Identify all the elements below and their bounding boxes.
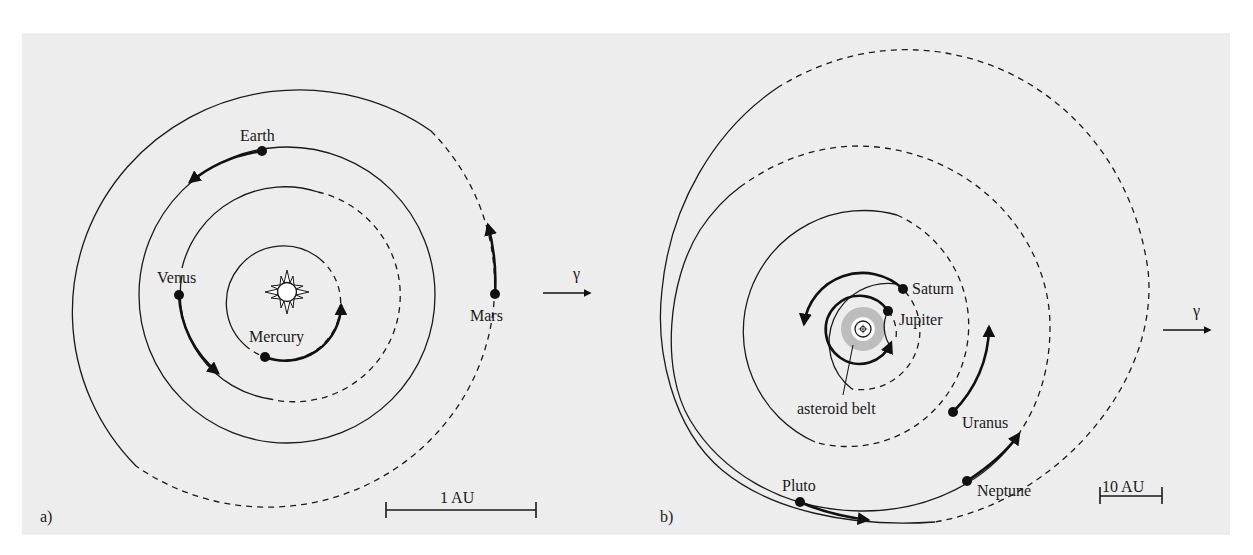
- neptune-dot: [962, 476, 972, 486]
- figure-background: [22, 33, 1230, 535]
- vernal-equinox-symbol-a: γ: [572, 265, 580, 283]
- saturn-label: Saturn: [912, 280, 954, 297]
- solar-system-orbits-figure: Mercury Venus Earth Mars γ 1 AU a): [0, 0, 1253, 555]
- venus-dot: [174, 290, 184, 300]
- asteroid-belt-label: asteroid belt: [797, 400, 876, 417]
- earth-label: Earth: [240, 127, 275, 144]
- uranus-label: Uranus: [962, 414, 1008, 431]
- neptune-label: Neptune: [977, 482, 1031, 500]
- uranus-dot: [948, 407, 958, 417]
- scale-bar-1au-label: 1 AU: [440, 489, 475, 506]
- pluto-label: Pluto: [782, 477, 816, 494]
- jupiter-dot: [883, 306, 893, 316]
- mars-dot: [490, 289, 500, 299]
- vernal-equinox-symbol-b: γ: [1192, 302, 1200, 320]
- panel-b-label: b): [660, 508, 673, 526]
- mercury-dot: [260, 352, 270, 362]
- earth-dot: [257, 146, 267, 156]
- panel-a-label: a): [40, 508, 52, 526]
- mercury-label: Mercury: [249, 328, 304, 346]
- mars-label: Mars: [470, 307, 503, 324]
- pluto-dot: [795, 497, 805, 507]
- saturn-dot: [898, 284, 908, 294]
- jupiter-label: Jupiter: [899, 311, 943, 329]
- scale-bar-10au-label: 10 AU: [1102, 478, 1145, 495]
- venus-label: Venus: [157, 269, 196, 286]
